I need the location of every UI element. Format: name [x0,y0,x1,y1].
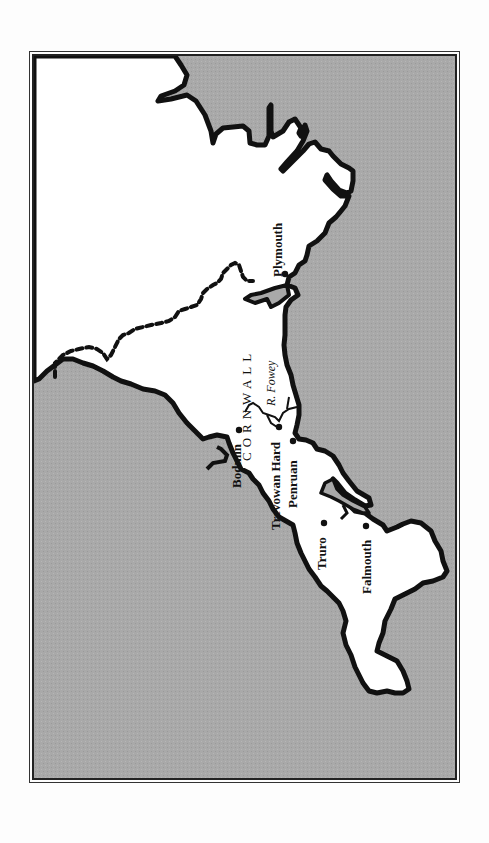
map-canvas: Plymouth Bodmin Trevowan Hard Penruan Tr… [32,54,457,780]
town-dot-trevowan-hard [276,424,282,430]
town-dot-falmouth [363,523,369,529]
river-label-fowey: R. Fowey [264,361,279,406]
map-frame: Plymouth Bodmin Trevowan Hard Penruan Tr… [29,51,460,783]
town-label-plymouth: Plymouth [270,223,286,277]
town-label-trevowan-hard: Trevowan Hard [268,442,284,530]
town-label-falmouth: Falmouth [359,540,375,594]
town-dot-penruan [290,438,296,444]
town-dot-truro [321,520,327,526]
region-label-cornwall: CORNWALL [239,349,255,461]
town-label-penruan: Penruan [285,460,301,508]
town-label-truro: Truro [314,537,330,570]
